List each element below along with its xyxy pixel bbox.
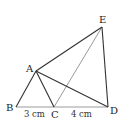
segment-ae: [36, 27, 102, 71]
label-point-e: E: [99, 14, 106, 25]
measurement-cd: 4 cm: [71, 109, 92, 119]
label-point-d: D: [110, 105, 118, 116]
geometry-diagram: A B C D E 3 cm 4 cm: [0, 0, 125, 125]
segment-ce: [54, 27, 102, 107]
label-point-a: A: [25, 63, 34, 74]
label-point-b: B: [6, 102, 13, 113]
segment-ac: [36, 71, 54, 107]
segment-ed: [102, 27, 108, 107]
measurement-bc: 3 cm: [24, 109, 45, 119]
segment-ab: [16, 71, 36, 107]
label-point-c: C: [51, 109, 59, 120]
